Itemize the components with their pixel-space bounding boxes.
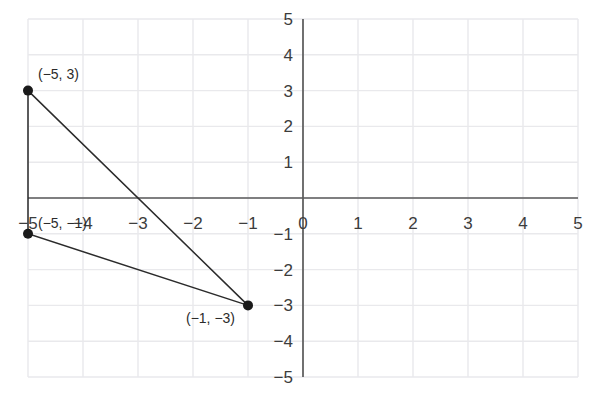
coordinate-plane-svg: −5−4−3−2−1012345 −5−4−3−2−112345 (−5, 3)… xyxy=(0,0,592,412)
x-tick-label: −1 xyxy=(238,214,257,233)
point-coordinate-label: (−1, −3) xyxy=(186,310,235,326)
y-tick-label: −5 xyxy=(274,368,293,387)
data-point xyxy=(23,229,33,239)
x-tick-label: −3 xyxy=(128,214,147,233)
y-tick-label: 4 xyxy=(284,46,293,65)
x-tick-label: 5 xyxy=(573,214,582,233)
x-tick-label: 0 xyxy=(298,214,307,233)
figure-background xyxy=(0,0,592,412)
point-coordinate-label: (−5, −1) xyxy=(38,215,87,231)
y-tick-label: −4 xyxy=(274,332,293,351)
y-tick-label: 3 xyxy=(284,82,293,101)
x-tick-label: 1 xyxy=(353,214,362,233)
x-tick-label: 4 xyxy=(518,214,527,233)
y-tick-label: −2 xyxy=(274,261,293,280)
y-tick-label: −1 xyxy=(274,225,293,244)
x-tick-label: 2 xyxy=(408,214,417,233)
y-tick-label: 2 xyxy=(284,117,293,136)
data-point xyxy=(243,300,253,310)
y-tick-label: 5 xyxy=(284,10,293,29)
y-tick-label: 1 xyxy=(284,153,293,172)
coordinate-plane-figure: −5−4−3−2−1012345 −5−4−3−2−112345 (−5, 3)… xyxy=(0,0,592,412)
point-coordinate-label: (−5, 3) xyxy=(38,66,79,82)
x-tick-label: −2 xyxy=(183,214,202,233)
y-tick-label: −3 xyxy=(274,296,293,315)
data-point xyxy=(23,86,33,96)
x-tick-label: 3 xyxy=(463,214,472,233)
